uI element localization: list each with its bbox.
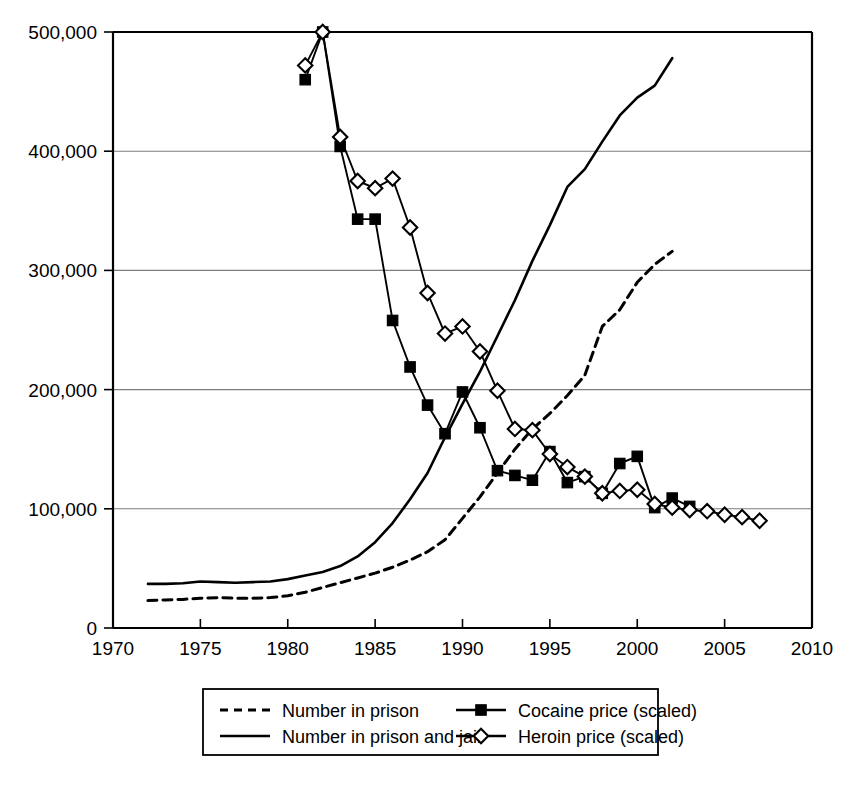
x-tick-label: 2000 bbox=[616, 638, 658, 659]
y-tick-label: 300,000 bbox=[28, 260, 97, 281]
datapoint-1992-square-marker bbox=[492, 465, 502, 475]
datapoint-1996-square-marker bbox=[562, 477, 572, 487]
y-tick-label: 400,000 bbox=[28, 141, 97, 162]
y-tick-label: 200,000 bbox=[28, 380, 97, 401]
datapoint-1984-diamond-marker bbox=[350, 174, 364, 188]
series-heroin-price-scaled bbox=[298, 25, 767, 528]
chart-legend: Number in prisonNumber in prison and jai… bbox=[203, 689, 697, 755]
datapoint-2007-diamond-marker bbox=[752, 514, 766, 528]
datapoint-1999-square-marker bbox=[615, 458, 625, 468]
series-path bbox=[305, 32, 759, 521]
datapoint-1985-square-marker bbox=[370, 214, 380, 224]
y-tick-label: 500,000 bbox=[28, 22, 97, 43]
x-tick-label: 1980 bbox=[267, 638, 309, 659]
legend-label: Number in prison and jail bbox=[282, 727, 481, 747]
x-tick-label: 1985 bbox=[354, 638, 396, 659]
datapoint-1994-square-marker bbox=[527, 475, 537, 485]
datapoint-1986-square-marker bbox=[387, 315, 397, 325]
datapoint-1990-diamond-marker bbox=[455, 319, 469, 333]
datapoint-1985-diamond-marker bbox=[368, 181, 382, 195]
legend-label: Cocaine price (scaled) bbox=[518, 701, 697, 721]
datapoint-1993-square-marker bbox=[510, 470, 520, 480]
x-tick-label: 1970 bbox=[92, 638, 134, 659]
legend-square-marker bbox=[476, 705, 486, 715]
datapoint-1986-diamond-marker bbox=[385, 171, 399, 185]
x-tick-label: 1990 bbox=[441, 638, 483, 659]
x-tick-label: 1995 bbox=[529, 638, 571, 659]
datapoint-2004-diamond-marker bbox=[700, 504, 714, 518]
line-chart: 197019751980198519901995200020052010 010… bbox=[0, 0, 860, 790]
legend-label: Number in prison bbox=[282, 701, 419, 721]
series-number-in-prison bbox=[148, 251, 672, 600]
x-tick-label: 2010 bbox=[791, 638, 833, 659]
datapoint-1987-diamond-marker bbox=[403, 220, 417, 234]
y-tick-label: 100,000 bbox=[28, 499, 97, 520]
datapoint-2006-diamond-marker bbox=[735, 510, 749, 524]
series-number-in-prison-and-jail bbox=[148, 58, 672, 584]
datapoint-1984-square-marker bbox=[352, 214, 362, 224]
datapoint-1989-diamond-marker bbox=[438, 326, 452, 340]
x-tick-label: 1975 bbox=[179, 638, 221, 659]
datapoint-1989-square-marker bbox=[440, 429, 450, 439]
series-path bbox=[148, 251, 672, 600]
x-axis-ticks bbox=[113, 619, 812, 628]
series-path bbox=[148, 58, 672, 584]
datapoint-1981-diamond-marker bbox=[298, 58, 312, 72]
y-axis-tick-labels: 0100,000200,000300,000400,000500,000 bbox=[28, 22, 97, 639]
y-tick-label: 0 bbox=[86, 618, 97, 639]
datapoint-1988-square-marker bbox=[422, 400, 432, 410]
datapoint-1981-square-marker bbox=[300, 74, 310, 84]
datapoint-1991-square-marker bbox=[475, 423, 485, 433]
datapoint-1999-diamond-marker bbox=[613, 484, 627, 498]
datapoint-2005-diamond-marker bbox=[717, 508, 731, 522]
datapoint-1990-square-marker bbox=[457, 387, 467, 397]
datapoint-1992-diamond-marker bbox=[490, 384, 504, 398]
datapoint-1987-square-marker bbox=[405, 362, 415, 372]
datapoint-1988-diamond-marker bbox=[420, 286, 434, 300]
datapoint-1991-diamond-marker bbox=[473, 344, 487, 358]
datapoint-1993-diamond-marker bbox=[508, 422, 522, 436]
datapoint-2000-square-marker bbox=[632, 451, 642, 461]
y-axis-ticks bbox=[104, 32, 113, 628]
x-axis-tick-labels: 197019751980198519901995200020052010 bbox=[92, 638, 833, 659]
chart-container: 197019751980198519901995200020052010 010… bbox=[0, 0, 860, 790]
gridlines bbox=[113, 32, 812, 509]
data-series bbox=[148, 25, 767, 601]
x-tick-label: 2005 bbox=[703, 638, 745, 659]
legend-label: Heroin price (scaled) bbox=[518, 727, 684, 747]
